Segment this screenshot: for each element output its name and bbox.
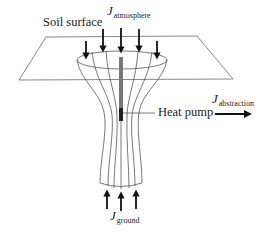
soil-surface-plane — [19, 36, 233, 80]
j-abstraction-label: Jabstraction — [212, 91, 254, 108]
heat-pump-label: Heat pump — [158, 105, 213, 120]
diagram-canvas — [0, 0, 262, 233]
j-atmosphere-label: Jatmosphere — [107, 3, 151, 20]
heat-pump-unit — [119, 108, 123, 121]
j-ground-label: Jground — [110, 208, 139, 225]
borehole-pipe — [119, 57, 123, 109]
atmosphere-arrows — [86, 28, 157, 56]
soil-surface-label: Soil surface — [43, 15, 102, 30]
